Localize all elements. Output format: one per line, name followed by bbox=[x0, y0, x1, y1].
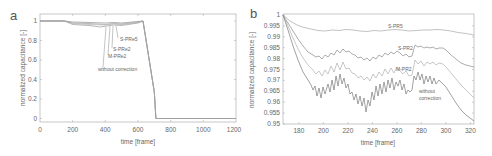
x-axis-ticks-a bbox=[73, 14, 204, 122]
annotation-s-pr2: S-PR2 bbox=[398, 45, 413, 51]
x-tick-labels-b: 180 200 220 240 260 280 300 320 bbox=[293, 127, 476, 134]
chart-panel-b: b 0.95 0.955 bbox=[246, 0, 492, 156]
chart-a-svg: a 0 0.2 0.4 0.6 0.8 1 bbox=[0, 0, 246, 156]
x-tick-label: 260 bbox=[391, 127, 402, 134]
y-tick-label: 0.4 bbox=[28, 76, 37, 83]
y-tick-label: 0.955 bbox=[264, 109, 281, 116]
x-tick-label: 320 bbox=[465, 127, 476, 134]
x-tick-label: 0 bbox=[38, 126, 42, 133]
panel-letter-b: b bbox=[250, 6, 257, 21]
series-line-s-pr2 bbox=[283, 15, 474, 67]
y-tick-label: 0.96 bbox=[267, 98, 280, 105]
y-tick-label: 0.6 bbox=[28, 56, 37, 63]
x-tick-labels-a: 0 200 400 600 800 1000 1200 bbox=[38, 126, 241, 133]
annotation-without-correction-line1: without bbox=[419, 88, 435, 94]
x-axis-label-a: time [frame] bbox=[121, 138, 156, 146]
y-tick-label: 0.965 bbox=[264, 87, 281, 94]
chart-panel-a: a 0 0.2 0.4 0.6 0.8 1 bbox=[0, 0, 246, 156]
y-axis-ticks-b bbox=[283, 15, 474, 124]
y-axis-label-a: normalized capacitance [-] bbox=[19, 30, 27, 106]
annotation-m-pre2: M-PRe2 bbox=[108, 53, 127, 59]
series-line-s-pr5 bbox=[283, 15, 474, 35]
y-tick-label: 0.985 bbox=[264, 44, 281, 51]
x-tick-label: 180 bbox=[293, 127, 304, 134]
y-axis-label-b: normalized capacitance [-] bbox=[248, 32, 256, 108]
x-tick-label: 240 bbox=[367, 127, 378, 134]
y-tick-label: 1 bbox=[276, 11, 280, 18]
annotation-s-pre5: S-PRe5 bbox=[120, 36, 138, 42]
panel-letter-a: a bbox=[10, 8, 18, 23]
x-axis-label-b: time [frame] bbox=[361, 139, 396, 147]
chart-b-svg: b 0.95 0.955 bbox=[246, 0, 492, 156]
x-tick-label: 200 bbox=[318, 127, 329, 134]
y-tick-label: 0.8 bbox=[28, 37, 37, 44]
x-tick-label: 800 bbox=[165, 126, 176, 133]
y-axis-ticks-a bbox=[40, 21, 236, 119]
y-tick-label: 0.98 bbox=[267, 55, 280, 62]
y-tick-labels-b: 0.95 0.955 0.96 0.965 0.97 0.975 0.98 0.… bbox=[264, 11, 281, 127]
y-tick-label: 0.95 bbox=[267, 120, 280, 127]
y-tick-label: 1 bbox=[33, 17, 37, 24]
x-tick-label: 1000 bbox=[196, 126, 211, 133]
annotation-without-correction: without correction bbox=[98, 66, 137, 72]
plot-frame-a bbox=[40, 14, 236, 122]
x-tick-label: 300 bbox=[440, 127, 451, 134]
x-tick-label: 600 bbox=[133, 126, 144, 133]
x-tick-label: 400 bbox=[100, 126, 111, 133]
y-tick-label: 0.995 bbox=[264, 22, 281, 29]
x-tick-label: 200 bbox=[67, 126, 78, 133]
annotation-s-pr5: S-PR5 bbox=[388, 23, 403, 29]
annotation-without-correction-line2: correction bbox=[419, 95, 441, 101]
series-line-without-correction bbox=[40, 21, 236, 119]
y-tick-label: 0.97 bbox=[267, 76, 280, 83]
y-tick-label: 0.2 bbox=[28, 95, 37, 102]
x-tick-label: 280 bbox=[416, 127, 427, 134]
annotation-s-pre2: S-PRe2 bbox=[113, 46, 131, 52]
y-tick-labels-a: 0 0.2 0.4 0.6 0.8 1 bbox=[28, 17, 37, 122]
series-line-s-pre5 bbox=[40, 21, 236, 119]
series-line-m-pr2 bbox=[283, 15, 474, 98]
y-tick-label: 0.99 bbox=[267, 33, 280, 40]
series-line-m-pre2 bbox=[40, 21, 236, 119]
series-line-s-pre2 bbox=[40, 21, 236, 119]
series-lines-a bbox=[40, 21, 236, 119]
x-tick-label: 220 bbox=[342, 127, 353, 134]
series-lines-b bbox=[283, 15, 474, 121]
y-tick-label: 0.975 bbox=[264, 66, 281, 73]
x-tick-label: 1200 bbox=[227, 126, 242, 133]
annotation-m-pr2: M-PR2 bbox=[396, 66, 412, 72]
y-tick-label: 0 bbox=[33, 115, 37, 122]
